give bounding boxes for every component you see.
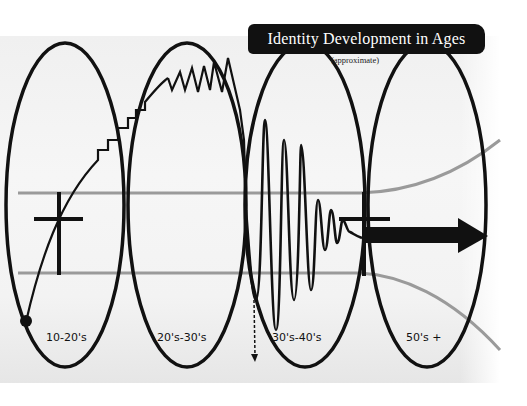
ellipse-20s-30s — [128, 43, 246, 367]
diagram-title: Identity Development in Ages — [248, 24, 485, 54]
forward-arrow-icon — [364, 218, 488, 253]
stage-label-30s-40s: 30's-40's — [272, 331, 321, 344]
identity-diagram — [0, 0, 527, 406]
guide-lines — [18, 140, 500, 350]
diagram-subtitle: (approximate) — [300, 55, 410, 65]
start-point-icon — [20, 315, 32, 327]
rising-curve — [26, 78, 168, 322]
dashed-down-arrow-icon — [251, 300, 258, 362]
oscillation-wave — [246, 120, 362, 330]
upper-guide-line — [18, 140, 500, 193]
stage-label-20s-30s: 20's-30's — [157, 331, 206, 344]
stage-label-10-20s: 10-20's — [46, 331, 87, 344]
ellipse-50s-plus — [368, 43, 486, 367]
stage-label-50s-plus: 50's + — [406, 331, 441, 344]
zigzag-peaks — [168, 58, 246, 210]
